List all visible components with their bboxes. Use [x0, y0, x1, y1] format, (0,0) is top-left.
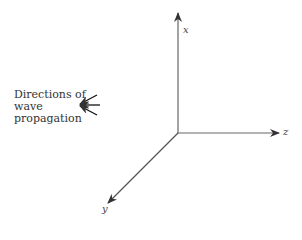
x-axis-label: x	[183, 24, 189, 35]
y-axis-label: y	[102, 203, 108, 214]
y-axis	[108, 133, 178, 203]
z-axis-label: z	[283, 126, 288, 137]
wave-propagation-caption: Directions of wave propagation	[14, 89, 86, 125]
